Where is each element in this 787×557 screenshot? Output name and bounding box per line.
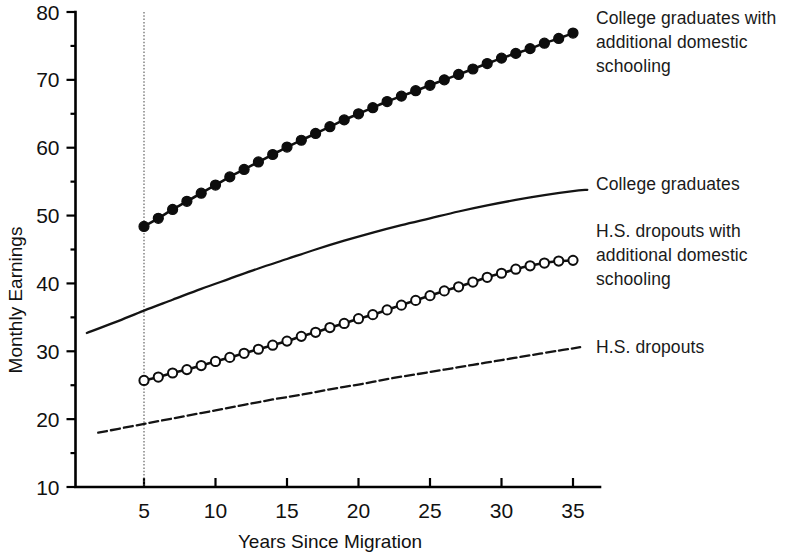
data-point <box>411 296 420 305</box>
data-point <box>540 258 549 267</box>
data-point <box>196 188 206 198</box>
data-point <box>497 53 507 63</box>
series-layer <box>87 28 588 433</box>
data-point <box>339 115 349 125</box>
data-point <box>482 59 492 69</box>
series-1 <box>87 190 588 333</box>
data-point <box>211 180 221 190</box>
x-axis-tick-labels: 5101520253035 <box>138 499 585 522</box>
data-point <box>340 319 349 328</box>
y-tick-80: 80 <box>36 1 59 24</box>
y-tick-20: 20 <box>36 408 59 431</box>
data-point <box>468 277 477 286</box>
data-point <box>526 261 535 270</box>
y-tick-10: 10 <box>36 476 59 499</box>
data-point <box>311 328 320 337</box>
data-point <box>154 372 163 381</box>
data-point <box>554 33 564 43</box>
data-point <box>425 80 435 90</box>
data-point <box>168 368 177 377</box>
axis-lines <box>76 12 601 487</box>
x-tick-15: 15 <box>275 499 298 522</box>
y-axis-title: Monthly Earnings <box>5 227 26 374</box>
data-point <box>139 221 149 231</box>
data-point <box>425 291 434 300</box>
x-axis-title: Years Since Migration <box>238 531 422 552</box>
data-point <box>268 150 278 160</box>
series-line-1 <box>87 190 588 333</box>
data-point <box>282 337 291 346</box>
data-point <box>483 273 492 282</box>
series-3 <box>98 347 580 433</box>
x-tick-5: 5 <box>138 499 150 522</box>
data-point <box>568 28 578 38</box>
data-point <box>382 97 392 107</box>
data-point <box>468 64 478 74</box>
data-point <box>325 323 334 332</box>
data-point <box>511 48 521 58</box>
data-point <box>511 265 520 274</box>
data-point <box>168 204 178 214</box>
x-tick-20: 20 <box>347 499 370 522</box>
data-point <box>296 135 306 145</box>
data-point <box>568 256 577 265</box>
x-tick-30: 30 <box>490 499 513 522</box>
y-tick-30: 30 <box>36 340 59 363</box>
series-2 <box>139 256 577 385</box>
y-tick-70: 70 <box>36 68 59 91</box>
axis-ticks <box>67 12 574 487</box>
data-point <box>325 122 335 132</box>
data-point <box>368 103 378 113</box>
data-point <box>397 301 406 310</box>
series-label-hs-dropouts: H.S. dropouts <box>596 335 786 359</box>
data-point <box>182 365 191 374</box>
data-point <box>539 38 549 48</box>
data-point <box>211 357 220 366</box>
data-point <box>396 91 406 101</box>
data-point <box>440 286 449 295</box>
data-point <box>139 376 148 385</box>
data-point <box>239 164 249 174</box>
data-point <box>454 282 463 291</box>
data-point <box>268 341 277 350</box>
data-point <box>254 345 263 354</box>
data-point <box>525 44 535 54</box>
y-tick-50: 50 <box>36 204 59 227</box>
data-point <box>411 86 421 96</box>
y-axis-tick-labels: 1020304050607080 <box>36 1 59 499</box>
data-point <box>240 349 249 358</box>
data-point <box>225 353 234 362</box>
y-tick-60: 60 <box>36 136 59 159</box>
y-tick-40: 40 <box>36 272 59 295</box>
series-label-hs-dropouts-with-additional-domestic-schooling: H.S. dropouts with additional domestic s… <box>596 219 786 291</box>
data-point <box>182 196 192 206</box>
data-point <box>153 213 163 223</box>
data-point <box>383 305 392 314</box>
data-point <box>282 142 292 152</box>
x-tick-25: 25 <box>418 499 441 522</box>
data-point <box>253 157 263 167</box>
series-line-0 <box>144 33 573 226</box>
data-point <box>297 332 306 341</box>
data-point <box>368 310 377 319</box>
series-line-3 <box>98 347 580 433</box>
chart-figure: 1020304050607080 5101520253035 Monthly E… <box>0 0 787 557</box>
data-point <box>225 172 235 182</box>
data-point <box>439 75 449 85</box>
data-point <box>354 314 363 323</box>
series-label-college-graduates: College graduates <box>596 172 786 196</box>
data-point <box>497 269 506 278</box>
data-point <box>354 109 364 119</box>
data-point <box>454 69 464 79</box>
data-point <box>197 361 206 370</box>
data-point <box>311 128 321 138</box>
x-tick-35: 35 <box>561 499 584 522</box>
x-tick-10: 10 <box>204 499 227 522</box>
data-point <box>554 256 563 265</box>
series-label-college-graduates-with-additional-domestic-schooling: College graduates with additional domest… <box>596 6 787 78</box>
